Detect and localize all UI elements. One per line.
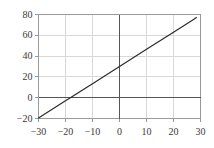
y-tick-label: 80 [23,10,33,20]
x-tick-label: 30 [196,127,206,137]
x-tick-label: 10 [142,127,152,137]
x-tick-label: −20 [58,127,74,137]
y-tick-label: 60 [23,30,33,40]
x-tick-label: −10 [85,127,101,137]
x-tick-label: −30 [31,127,47,137]
data-line-series [39,18,197,118]
chart-figure: −20020406080 −30−20−100102030 [0,0,214,148]
y-tick-label: 0 [28,93,33,103]
y-tick-label: 20 [23,72,33,82]
y-tick-label: 40 [23,51,33,61]
x-tick-label: 0 [117,127,122,137]
y-tick-label: −20 [17,114,33,124]
data-line [39,18,197,118]
x-tick-label: 20 [169,127,179,137]
